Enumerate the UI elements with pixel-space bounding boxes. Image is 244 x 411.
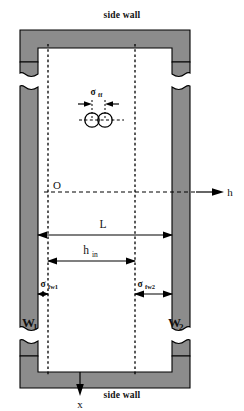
- figure-container: side wall side wall O h x L h in σ ff σ …: [0, 0, 244, 411]
- top-side-wall-label: side wall: [104, 10, 141, 20]
- hin-dimension-label: h in: [83, 244, 98, 259]
- sigma-ff-right-arrowhead: [105, 101, 113, 107]
- sigma-ff-label: σ ff: [90, 87, 103, 98]
- pore-diagram-svg: side wall side wall O h x L h in σ ff σ …: [0, 0, 244, 411]
- wall-right-subscript: 2: [179, 322, 184, 332]
- h-axis-label: h: [227, 186, 233, 198]
- bottom-wall-shape: [20, 356, 190, 388]
- sigma-ff-left-arrowhead: [84, 101, 92, 107]
- hin-label-subscript: in: [92, 250, 98, 259]
- L-dimension-label: L: [99, 218, 106, 230]
- L-dimension-group: [37, 231, 173, 238]
- right-wall-upper-stub: [172, 62, 190, 77]
- right-wall-lower-stub: [172, 340, 190, 356]
- h-axis-arrowhead: [212, 188, 224, 196]
- left-wall-lower-stub: [20, 340, 38, 356]
- top-wall-shape: [20, 30, 190, 62]
- top-wall-group: [20, 30, 190, 62]
- h-axis-group: [44, 188, 224, 196]
- sigma-ff-base: σ: [90, 87, 96, 97]
- sigma-fw1-subscript: fw1: [48, 283, 58, 290]
- sigma-fw1-base: σ: [40, 279, 46, 289]
- sigma-fw2-base: σ: [137, 279, 143, 289]
- x-axis-label: x: [77, 398, 83, 410]
- sigma-fw2-arrowhead-left: [134, 290, 144, 297]
- sigma-ff-dimension-group: [78, 101, 119, 107]
- sigma-fw2-dimension-group: [134, 290, 173, 297]
- origin-label: O: [53, 179, 61, 191]
- x-axis-arrowhead: [76, 384, 84, 396]
- sigma-fw1-dimension-group: [37, 291, 49, 296]
- sigma-fw1-label: σ fw1: [40, 279, 58, 290]
- hin-label-base: h: [83, 244, 89, 256]
- left-wall-main: [20, 86, 38, 331]
- right-wall-main: [172, 86, 190, 331]
- right-wall-group: [172, 62, 190, 356]
- left-wall-group: [20, 62, 38, 356]
- bottom-wall-group: [20, 356, 190, 388]
- wall-left-subscript: 1: [33, 322, 38, 332]
- sigma-fw2-subscript: fw2: [145, 283, 155, 290]
- sigma-fw2-label: σ fw2: [137, 279, 155, 290]
- sigma-ff-subscript: ff: [98, 91, 103, 98]
- left-wall-upper-stub: [20, 62, 38, 77]
- fluid-particle-circle-right: [98, 113, 112, 127]
- bottom-side-wall-label: side wall: [104, 390, 141, 400]
